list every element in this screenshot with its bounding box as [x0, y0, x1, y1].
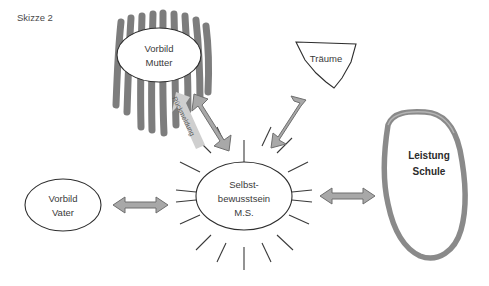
node-leistung-schule-line2: Schule — [413, 166, 446, 177]
node-leistung-schule-line1: Leistung — [408, 150, 450, 161]
node-vorbild-mutter[interactable]: Vorbild Mutter — [117, 28, 201, 82]
node-leistung-schule[interactable]: Leistung Schule — [384, 112, 465, 258]
node-center-line1: Selbst- — [229, 179, 259, 190]
caption-label: Skizze 2 — [17, 12, 53, 23]
node-vorbild-vater[interactable]: Vorbild Vater — [25, 179, 101, 231]
node-traeume[interactable]: Träume — [296, 42, 356, 88]
edge-traeume-arrow[interactable] — [271, 96, 306, 148]
node-center-line3: M.S. — [234, 207, 254, 218]
diagram-canvas: Vorbild Mutter Träume Leistung Schule Vo… — [0, 0, 489, 286]
node-vorbild-vater-line1: Vorbild — [48, 193, 77, 204]
node-traeume-line1: Träume — [310, 53, 342, 64]
node-vorbild-mutter-line2: Mutter — [146, 57, 173, 68]
edge-schule-arrow[interactable] — [320, 188, 375, 204]
edge-vater-arrow[interactable] — [113, 197, 168, 213]
node-vorbild-vater-line2: Vater — [52, 207, 74, 218]
node-selbstbewusstsein[interactable]: Selbst- bewusstsein M.S. — [196, 162, 292, 230]
node-vorbild-mutter-line1: Vorbild — [144, 43, 173, 54]
node-center-line2: bewusstsein — [218, 193, 270, 204]
diagram-svg: Vorbild Mutter Träume Leistung Schule Vo… — [0, 0, 489, 286]
